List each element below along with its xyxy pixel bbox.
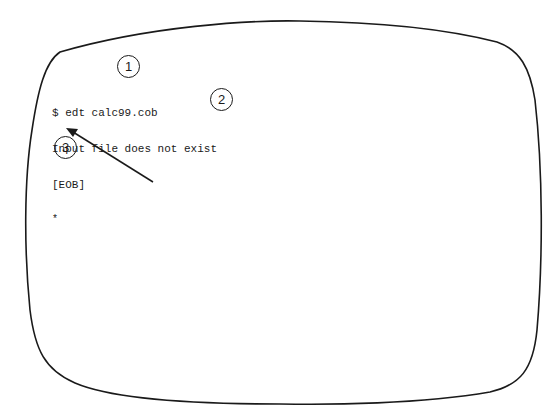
- figure: $ edt calc99.cob Input file does not exi…: [0, 0, 557, 419]
- edt-prompt: *: [52, 215, 217, 225]
- terminal-output: $ edt calc99.cob Input file does not exi…: [52, 83, 217, 249]
- eob-marker: [EOB]: [52, 179, 217, 191]
- callout-1: 1: [117, 55, 140, 78]
- callout-2: 2: [210, 88, 233, 111]
- command-line: $ edt calc99.cob: [52, 107, 217, 119]
- callout-3: 3: [54, 136, 77, 159]
